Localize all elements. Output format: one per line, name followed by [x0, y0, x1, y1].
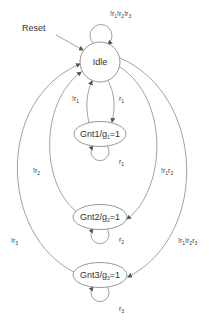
edge-gnt1-loop: r1 [91, 146, 124, 167]
state-label-gnt3: Gnt3/g3=1 [80, 270, 120, 281]
state-diagram: Reset !r1!r2!r3 !r1 r1 !r2 !r1r2 !r3 !r1… [0, 0, 209, 324]
state-gnt1: Gnt1/g1=1 [74, 122, 126, 147]
state-gnt3: Gnt3/g3=1 [73, 263, 127, 288]
gnt3-self-loop [91, 287, 109, 302]
edge-label-gnt2-to-idle: !r2 [33, 167, 40, 176]
arrow-idle-to-gnt3 [120, 58, 187, 277]
edge-label-gnt3-to-idle: !r3 [11, 237, 18, 246]
edge-idle-to-gnt3: !r1!r2r3 [120, 58, 197, 277]
edge-label-gnt1-loop: r1 [119, 158, 124, 167]
edge-idle-loop: !r1!r2!r3 [90, 10, 131, 44]
gnt2-self-loop [91, 229, 109, 244]
idle-self-loop [90, 25, 112, 44]
arrow-idle-to-gnt1 [108, 81, 114, 122]
arrow-idle-to-gnt2 [120, 67, 157, 219]
edge-label-idle-to-gnt3: !r1!r2r3 [178, 237, 197, 246]
state-idle: Idle [80, 42, 120, 82]
reset-arrow [56, 35, 83, 50]
edge-gnt3-loop: r3 [91, 287, 124, 314]
state-gnt2: Gnt2/g2=1 [73, 205, 127, 230]
state-label-idle: Idle [93, 57, 108, 67]
state-label-gnt1: Gnt1/g1=1 [80, 129, 120, 140]
arrow-gnt1-to-idle [87, 81, 92, 123]
edge-label-idle-to-gnt1: r1 [119, 95, 124, 104]
edge-gnt2-loop: r2 [91, 229, 124, 245]
reset-label: Reset [22, 23, 46, 33]
edge-gnt1-to-idle: !r1 [72, 81, 92, 123]
edge-idle-to-gnt1: r1 [108, 81, 124, 122]
reset-transition: Reset [22, 23, 83, 50]
edge-label-gnt2-loop: r2 [119, 236, 124, 245]
state-label-gnt2: Gnt2/g2=1 [80, 212, 120, 223]
edge-label-gnt3-loop: r3 [119, 305, 124, 314]
gnt1-self-loop [91, 146, 109, 161]
edge-label-gnt1-to-idle: !r1 [72, 95, 79, 104]
edge-gnt3-to-idle: !r3 [11, 64, 80, 272]
arrow-gnt2-to-idle [50, 72, 81, 211]
arrow-gnt3-to-idle [17, 64, 80, 272]
edge-idle-to-gnt2: !r1r2 [120, 67, 173, 219]
edge-label-idle-loop: !r1!r2!r3 [110, 10, 131, 19]
edge-label-idle-to-gnt2: !r1r2 [161, 167, 173, 176]
edge-gnt2-to-idle: !r2 [33, 72, 81, 211]
